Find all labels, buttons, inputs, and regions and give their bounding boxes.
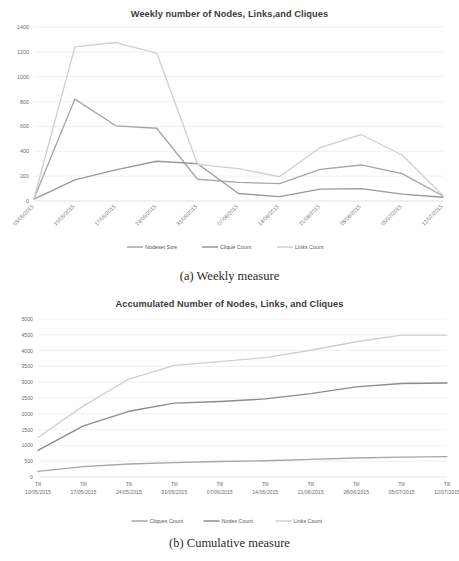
figure-page: Weekly number of Nodes, Links,and Clique…: [0, 0, 459, 561]
x-axis-tick-label: 07/06/2015: [216, 203, 239, 226]
legend-label: Links Count: [294, 518, 323, 524]
x-axis-tick-prefix: Till: [353, 481, 359, 487]
y-axis-tick-label: 1000: [17, 74, 29, 80]
x-axis-tick-label-group: 28/06/2015: [339, 203, 362, 226]
legend-label: Cliques Count: [150, 518, 184, 524]
y-axis-tick-label: 4000: [21, 348, 33, 354]
x-axis-tick-label: 24/05/2015: [134, 203, 157, 226]
caption-weekly: (a) Weekly measure: [0, 269, 459, 284]
x-axis-tick-label: 31/05/2015: [161, 489, 187, 495]
x-axis-tick-prefix: Till: [444, 481, 450, 487]
x-axis-tick-label: 31/05/2015: [175, 203, 198, 226]
chart-legend: Cliques CountNodes CountLinks Count: [132, 518, 323, 524]
series-line-nodeset-size: [34, 99, 443, 198]
x-axis-tick-prefix: Till: [262, 481, 268, 487]
x-axis-tick-label: 10/05/2015: [25, 489, 51, 495]
figure-cumulative: Accumulated Number of Nodes, Links, and …: [0, 290, 459, 561]
chart-legend: Nodeset SizeClique CountLinks Count: [127, 244, 324, 250]
series-line-cliques-count: [38, 457, 447, 472]
figure-weekly: Weekly number of Nodes, Links,and Clique…: [0, 0, 459, 290]
x-axis-tick-label: 12/07/2015: [434, 489, 459, 495]
x-axis-tick-label: 17/05/2015: [93, 203, 116, 226]
x-axis-tick-label-group: 14/06/2015: [257, 203, 280, 226]
x-axis-tick-label: 05/07/2015: [379, 203, 402, 226]
x-axis-tick-prefix: Till: [398, 481, 404, 487]
x-axis-tick-label-group: 21/06/2015: [298, 203, 321, 226]
plot-area-weekly: 020040060080010001200140003/05/201510/05…: [0, 19, 459, 269]
x-axis-tick-label-group: 24/05/2015: [134, 203, 157, 226]
chart-title-weekly: Weekly number of Nodes, Links,and Clique…: [0, 0, 459, 19]
x-axis-tick-label-group: 05/07/2015: [379, 203, 402, 226]
series-line-nodes-count: [38, 383, 447, 450]
x-axis-tick-label: 03/05/2015: [11, 203, 34, 226]
x-axis-tick-label: 28/06/2015: [339, 203, 362, 226]
x-axis-tick-label-group: 17/05/2015: [93, 203, 116, 226]
line-chart-cumulative: 0500100015002000250030003500400045005000…: [0, 309, 459, 539]
x-axis-tick-label: 21/06/2015: [298, 489, 324, 495]
x-axis-tick-label: 10/05/2015: [52, 203, 75, 226]
y-axis-tick-label: 500: [24, 458, 33, 464]
x-axis-tick-label: 07/06/2015: [207, 489, 233, 495]
legend-label: Nodes Count: [222, 518, 254, 524]
x-axis-tick-label: 24/05/2015: [116, 489, 142, 495]
x-axis-tick-prefix: Till: [126, 481, 132, 487]
x-axis-tick-label: 12/07/2015: [420, 203, 443, 226]
legend-label: Links Count: [295, 244, 324, 250]
y-axis-tick-label: 400: [20, 148, 29, 154]
y-axis-tick-label: 800: [20, 99, 29, 105]
x-axis-tick-prefix: Till: [80, 481, 86, 487]
y-axis-tick-label: 1500: [21, 427, 33, 433]
x-axis-tick-prefix: Till: [307, 481, 313, 487]
series-line-clique-count: [34, 161, 443, 199]
caption-cumulative: (b) Cumulative measure: [0, 536, 459, 551]
y-axis-tick-label: 200: [20, 173, 29, 179]
y-axis-tick-label: 5000: [21, 316, 33, 322]
x-axis-tick-label-group: 03/05/2015: [11, 203, 34, 226]
y-axis-tick-label: 600: [20, 123, 29, 129]
x-axis-tick-label: 14/06/2015: [257, 203, 280, 226]
x-axis-tick-label-group: 31/05/2015: [175, 203, 198, 226]
y-axis-tick-label: 2000: [21, 411, 33, 417]
y-axis-tick-label: 1400: [17, 24, 29, 30]
y-axis-tick-label: 4500: [21, 332, 33, 338]
x-axis-tick-label: 05/07/2015: [389, 489, 415, 495]
x-axis-tick-label: 28/06/2015: [343, 489, 369, 495]
x-axis-tick-prefix: Till: [217, 481, 223, 487]
y-axis-tick-label: 2500: [21, 395, 33, 401]
x-axis-tick-prefix: Till: [171, 481, 177, 487]
x-axis-tick-label-group: 10/05/2015: [52, 203, 75, 226]
x-axis-tick-label: 21/06/2015: [298, 203, 321, 226]
x-axis-tick-label-group: 07/06/2015: [216, 203, 239, 226]
plot-area-cumulative: 0500100015002000250030003500400045005000…: [0, 309, 459, 539]
legend-label: Clique Count: [220, 244, 252, 250]
x-axis-tick-label: 17/05/2015: [70, 489, 96, 495]
x-axis-tick-prefix: Till: [35, 481, 41, 487]
line-chart-weekly: 020040060080010001200140003/05/201510/05…: [0, 19, 459, 269]
x-axis-tick-label-group: 12/07/2015: [420, 203, 443, 226]
y-axis-tick-label: 1000: [21, 442, 33, 448]
y-axis-tick-label: 0: [30, 474, 33, 480]
y-axis-tick-label: 3000: [21, 379, 33, 385]
y-axis-tick-label: 1200: [17, 49, 29, 55]
y-axis-tick-label: 0: [26, 198, 29, 204]
legend-label: Nodeset Size: [145, 244, 177, 250]
chart-title-cumulative: Accumulated Number of Nodes, Links, and …: [0, 290, 459, 309]
y-axis-tick-label: 3500: [21, 363, 33, 369]
x-axis-tick-label: 14/06/2015: [252, 489, 278, 495]
